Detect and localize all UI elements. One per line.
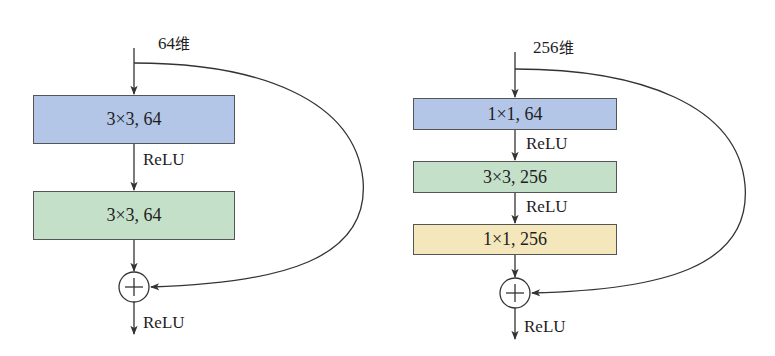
left-relu-label-1: ReLU xyxy=(143,150,185,170)
right-relu-label-2: ReLU xyxy=(526,197,568,217)
left-output-relu-label: ReLU xyxy=(143,313,185,333)
left-conv-layer-2: 3×3, 64 xyxy=(33,191,235,240)
right-conv-layer-1: 1×1, 64 xyxy=(413,98,617,130)
right-conv-layer-3: 1×1, 256 xyxy=(413,224,617,255)
right-output-relu-label: ReLU xyxy=(524,317,566,337)
diagram-connectors xyxy=(0,0,775,356)
right-input-dim-label: 256维 xyxy=(533,38,574,58)
left-input-dim-label: 64维 xyxy=(158,34,190,54)
left-conv-layer-1: 3×3, 64 xyxy=(33,95,235,144)
right-conv-layer-2: 3×3, 256 xyxy=(413,161,617,193)
right-relu-label-1: ReLU xyxy=(526,134,568,154)
